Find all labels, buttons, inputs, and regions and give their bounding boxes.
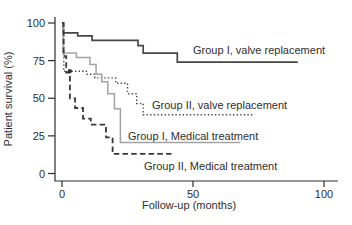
- series-line-1: [62, 23, 298, 62]
- series-label-1: Group I, valve replacement: [193, 44, 325, 56]
- y-axis-title: Patient survival (%): [2, 52, 14, 147]
- y-tick-label: 75: [33, 55, 45, 67]
- x-tick-label: 100: [315, 188, 333, 200]
- y-tick-label: 0: [39, 168, 45, 180]
- series-label-3: Group I, Medical treatment: [128, 130, 258, 142]
- series-line-3: [62, 23, 240, 143]
- y-tick-label: 25: [33, 130, 45, 142]
- y-tick-label: 100: [27, 17, 45, 29]
- survival-chart: 0255075100050100Patient survival (%)Foll…: [0, 0, 352, 225]
- y-tick-label: 50: [33, 92, 45, 104]
- series-label-4: Group II, Medical treatment: [144, 160, 277, 172]
- censor-mark: [68, 69, 72, 73]
- survival-figure: 0255075100050100Patient survival (%)Foll…: [0, 0, 352, 225]
- x-tick-label: 0: [59, 188, 65, 200]
- series-label-2: Group II, valve replacement: [152, 99, 287, 111]
- x-axis-title: Follow-up (months): [142, 199, 236, 211]
